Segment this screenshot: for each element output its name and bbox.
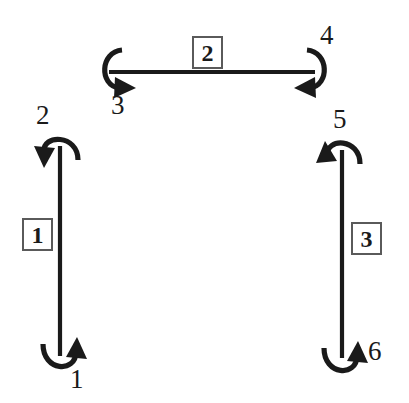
joint-label-6: 6 bbox=[368, 338, 382, 365]
joint-2-arrowhead bbox=[34, 146, 55, 168]
link-label-box-3: 3 bbox=[351, 222, 382, 255]
joint-label-1: 1 bbox=[70, 366, 84, 393]
link-label-2: 2 bbox=[202, 41, 214, 65]
joint-6-arrowhead bbox=[347, 341, 368, 363]
link-label-box-2: 2 bbox=[192, 36, 223, 69]
joint-label-3: 3 bbox=[111, 92, 125, 119]
joint-label-2: 2 bbox=[36, 102, 50, 129]
joint-label-5: 5 bbox=[333, 106, 347, 133]
kinematic-chain-diagram: 1 2 3 1 2 3 4 5 6 bbox=[0, 0, 409, 403]
joint-1-arrowhead bbox=[66, 337, 87, 359]
link-label-3: 3 bbox=[361, 227, 373, 251]
link-label-1: 1 bbox=[32, 223, 44, 247]
link-label-box-1: 1 bbox=[22, 218, 53, 251]
joint-label-4: 4 bbox=[320, 22, 334, 49]
joint-4-arrowhead bbox=[294, 77, 316, 98]
